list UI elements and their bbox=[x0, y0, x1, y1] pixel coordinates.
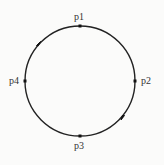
arrow-icon-upper-left bbox=[37, 42, 41, 46]
point-label-p3: p3 bbox=[74, 141, 84, 151]
point-marker-p3 bbox=[79, 135, 82, 138]
point-marker-p2 bbox=[134, 80, 137, 83]
point-marker-p1 bbox=[79, 25, 82, 28]
point-label-p1: p1 bbox=[74, 12, 84, 22]
point-marker-p4 bbox=[24, 80, 27, 83]
point-label-p2: p2 bbox=[141, 76, 151, 86]
point-label-p4: p4 bbox=[9, 76, 19, 86]
circle-path bbox=[25, 26, 135, 136]
diagram-canvas: p1 p2 p3 p4 bbox=[0, 0, 164, 165]
